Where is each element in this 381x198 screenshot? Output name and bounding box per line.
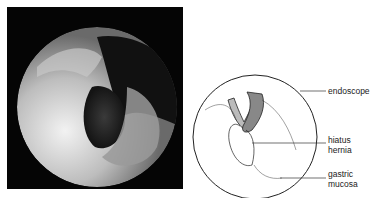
label-endoscope: endoscope bbox=[328, 86, 370, 96]
label-line: endoscope bbox=[328, 86, 370, 96]
label-gastric-mucosa: gastric mucosa bbox=[328, 169, 358, 189]
label-line: hiatus bbox=[328, 135, 352, 145]
label-hiatus-hernia: hiatus hernia bbox=[328, 135, 352, 155]
label-line: hernia bbox=[328, 145, 352, 155]
endoscopy-illustration-icon bbox=[0, 0, 381, 198]
label-line: mucosa bbox=[328, 179, 358, 189]
label-line: gastric bbox=[328, 169, 358, 179]
